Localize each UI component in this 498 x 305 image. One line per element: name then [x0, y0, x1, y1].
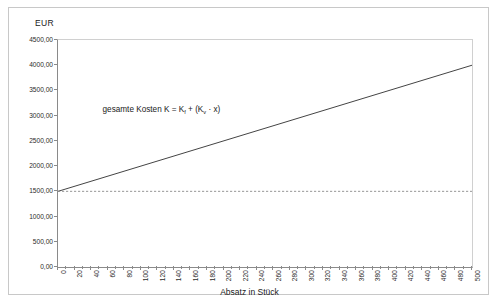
- x-axis-tick-label: 260: [275, 270, 282, 281]
- x-axis-tick-label: 0: [60, 270, 67, 274]
- x-axis-tick-mark: [264, 266, 265, 269]
- x-axis-tick-mark: [330, 266, 331, 269]
- x-axis-tick-mark: [363, 266, 364, 269]
- x-axis-tick-mark: [281, 266, 282, 269]
- x-axis-tick-mark: [165, 266, 166, 269]
- y-axis-tick-label: 4500,00: [29, 36, 53, 43]
- x-axis-tick-label: 120: [159, 270, 166, 281]
- x-axis-tick-mark: [148, 266, 149, 269]
- y-axis-title: EUR: [35, 18, 54, 28]
- x-axis-tick-mark: [65, 266, 66, 269]
- plot-lines: [58, 40, 472, 267]
- x-axis-tick-label: 500: [474, 270, 481, 281]
- x-axis-tick-mark: [297, 266, 298, 269]
- y-axis-tick-labels: 0,00500,001000,001500,002000,002500,0030…: [9, 39, 53, 266]
- x-axis-tick-label: 40: [93, 270, 100, 278]
- y-axis-tick-label: 1000,00: [29, 212, 53, 219]
- x-axis-tick-mark: [396, 266, 397, 269]
- x-axis-tick-label: 460: [440, 270, 447, 281]
- x-axis-tick-label: 180: [209, 270, 216, 281]
- y-axis-tick-label: 1500,00: [29, 187, 53, 194]
- x-axis-tick-mark: [198, 266, 199, 269]
- chart-card: EUR 0,00500,001000,001500,002000,002500,…: [8, 7, 489, 295]
- x-axis-tick-labels: 0204060801001201401601802002202402602803…: [57, 270, 473, 288]
- x-axis-tick-label: 60: [109, 270, 116, 278]
- x-axis-tick-label: 100: [142, 270, 149, 281]
- x-axis-tick-label: 240: [258, 270, 265, 281]
- x-axis-tick-label: 20: [76, 270, 83, 278]
- x-axis-tick-label: 380: [374, 270, 381, 281]
- x-axis-tick-mark: [214, 266, 215, 269]
- x-axis-tick-label: 340: [341, 270, 348, 281]
- x-axis-tick-label: 140: [175, 270, 182, 281]
- x-axis-tick-label: 320: [324, 270, 331, 281]
- x-axis-tick-label: 280: [291, 270, 298, 281]
- x-axis-tick-label: 220: [242, 270, 249, 281]
- x-axis-tick-mark: [430, 266, 431, 269]
- x-axis-tick-label: 420: [407, 270, 414, 281]
- formula-subscript-fixed: f: [184, 109, 186, 115]
- x-axis-tick-mark: [247, 266, 248, 269]
- x-axis-tick-mark: [446, 266, 447, 269]
- y-axis-tick-label: 2000,00: [29, 162, 53, 169]
- x-axis-tick-mark: [463, 266, 464, 269]
- cost-function-formula: gesamte Kosten K = Kf + (Kv · x): [103, 105, 221, 114]
- x-axis-tick-label: 200: [225, 270, 232, 281]
- x-axis-tick-label: 80: [126, 270, 133, 278]
- x-axis-title: Absatz in Stück: [9, 287, 490, 297]
- formula-suffix: · x): [206, 105, 220, 114]
- x-axis-tick-mark: [231, 266, 232, 269]
- x-axis-tick-label: 400: [391, 270, 398, 281]
- y-axis-tick-label: 3500,00: [29, 86, 53, 93]
- x-axis-tick-mark: [413, 266, 414, 269]
- x-axis-tick-mark: [181, 266, 182, 269]
- y-axis-tick-label: 500,00: [33, 237, 53, 244]
- plot-area: [57, 39, 473, 268]
- x-axis-tick-mark: [314, 266, 315, 269]
- x-axis-tick-label: 360: [358, 270, 365, 281]
- formula-subscript-variable: v: [203, 109, 206, 115]
- x-axis-tick-mark: [347, 266, 348, 269]
- y-axis-tick-label: 3000,00: [29, 111, 53, 118]
- y-axis-tick-label: 2500,00: [29, 136, 53, 143]
- formula-prefix: gesamte Kosten K = K: [103, 105, 185, 114]
- total-cost-line: [58, 65, 472, 191]
- y-axis-tick-label: 4000,00: [29, 61, 53, 68]
- x-axis-tick-mark: [380, 266, 381, 269]
- formula-middle: + (K: [186, 105, 204, 114]
- x-axis-tick-label: 440: [424, 270, 431, 281]
- x-axis-tick-label: 160: [192, 270, 199, 281]
- x-axis-tick-label: 300: [308, 270, 315, 281]
- x-axis-tick-label: 480: [457, 270, 464, 281]
